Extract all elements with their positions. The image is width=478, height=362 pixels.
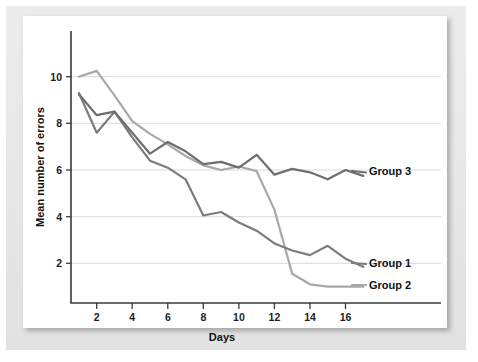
series-labels: Group 3 Group 1 Group 2 (369, 165, 411, 291)
x-tick-label-8: 8 (200, 311, 206, 323)
x-tick-label-2: 2 (94, 311, 100, 323)
y-tick-label-6: 6 (56, 164, 62, 176)
x-tick-label-4: 4 (129, 311, 135, 323)
x-axis-title: Days (209, 331, 235, 343)
y-tick-label-8: 8 (56, 117, 62, 129)
label-leaders (352, 171, 366, 285)
x-tick-label-14: 14 (304, 311, 316, 323)
leader-group1 (352, 263, 366, 264)
x-tick-label-6: 6 (165, 311, 171, 323)
series-label-group3: Group 3 (369, 165, 411, 177)
y-tick-label-4: 4 (56, 211, 62, 223)
x-tick-label-16: 16 (340, 311, 352, 323)
x-tick-label-12: 12 (269, 311, 281, 323)
series-group (79, 71, 363, 287)
y-tick-labels: 10 8 6 4 2 (50, 71, 62, 270)
x-tick-label-10: 10 (233, 311, 245, 323)
plot-area: 10 8 6 4 2 2 4 6 8 (0, 0, 478, 362)
x-tick-marks (97, 303, 346, 309)
series-label-group1: Group 1 (369, 257, 411, 269)
leader-group3 (352, 171, 366, 173)
x-tick-labels: 2 4 6 8 10 12 14 16 (94, 311, 352, 323)
y-tick-label-2: 2 (56, 257, 62, 269)
line-chart-svg: 10 8 6 4 2 2 4 6 8 (0, 0, 478, 362)
y-axis-title: Mean number of errors (34, 107, 46, 227)
y-tick-label-10: 10 (50, 71, 62, 83)
series-label-group2: Group 2 (369, 279, 411, 291)
chart-screenshot: 10 8 6 4 2 2 4 6 8 (0, 0, 478, 362)
series-line-group2 (79, 71, 363, 287)
